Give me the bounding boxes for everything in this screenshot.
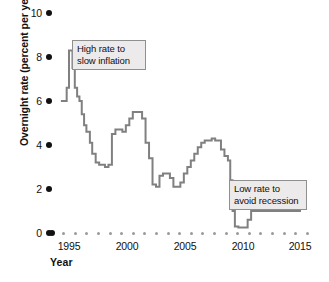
high-rate-annotation: High rate to slow inflation [72,40,146,70]
high-rate-annotation-line1: High rate to [77,43,141,55]
chart-container: Overnight rate (percent per year) 10 8 6… [0,0,329,282]
low-rate-annotation-line1: Low rate to [234,183,302,195]
low-rate-annotation: Low rate to avoid recession [229,180,307,210]
high-rate-annotation-line2: slow inflation [77,55,141,67]
chart-plot-area [0,0,329,282]
low-rate-annotation-line2: avoid recession [234,195,302,207]
